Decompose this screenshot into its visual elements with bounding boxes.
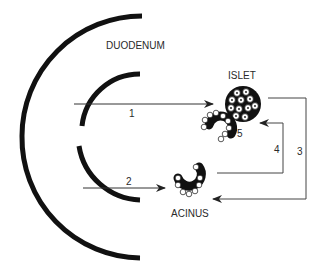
pathway-4-label: 4 bbox=[274, 144, 280, 155]
pancreas-diagram: DUODENUM 1 2 ISLET bbox=[0, 0, 320, 275]
duodenum-label: DUODENUM bbox=[106, 40, 165, 51]
duodenum-outer-wall bbox=[22, 16, 142, 258]
pathway-2-label: 2 bbox=[126, 176, 132, 187]
islet-label: ISLET bbox=[228, 70, 256, 81]
pathway-3-label: 3 bbox=[297, 146, 303, 157]
pathway-5-label: 5 bbox=[237, 128, 243, 139]
pathway-1-label: 1 bbox=[129, 108, 135, 119]
acinus-label: ACINUS bbox=[171, 208, 209, 219]
acinus bbox=[175, 164, 203, 197]
duodenum-inner-wall-lower bbox=[79, 146, 140, 200]
islet-adjacent-acinus bbox=[201, 110, 232, 142]
